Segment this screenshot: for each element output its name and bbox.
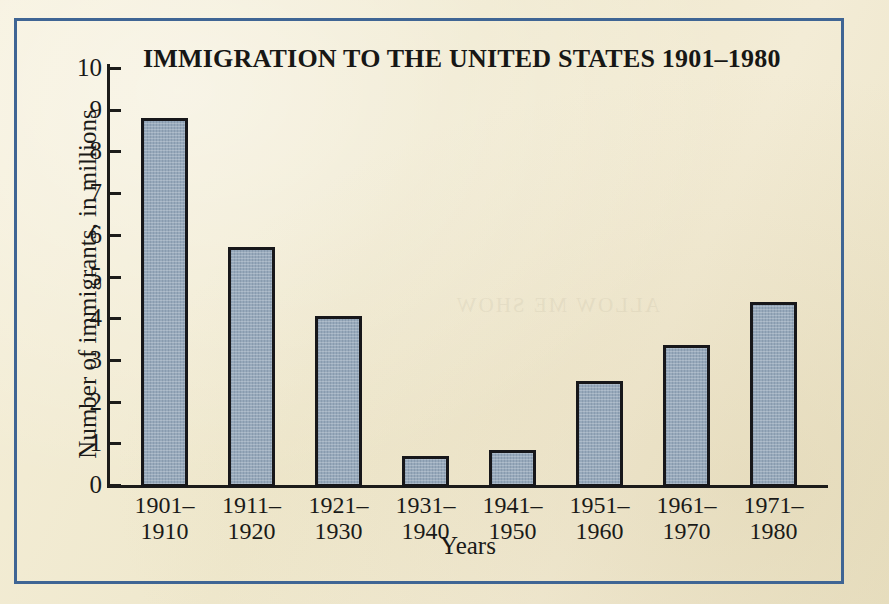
chart-page: ALLOW ME SHOW IMMIGRATION TO THE UNITED …	[0, 0, 889, 604]
chart-border-frame	[14, 18, 844, 584]
